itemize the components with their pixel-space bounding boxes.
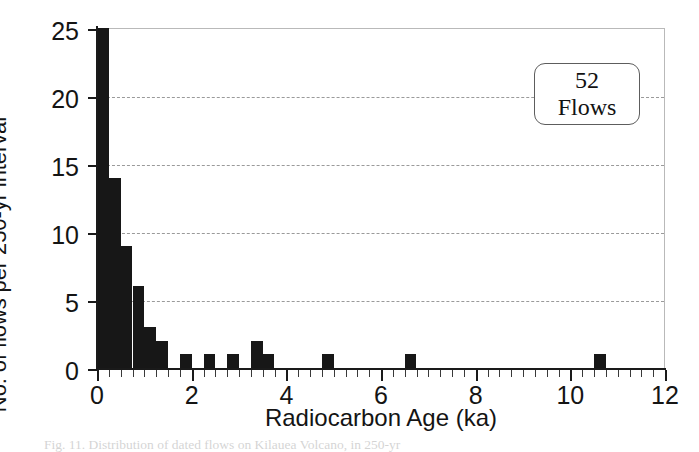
x-tick-minor	[464, 370, 465, 377]
x-tick-minor	[417, 370, 418, 377]
bar	[251, 341, 263, 368]
plot-area: 25 20 15 10 5 0 52 Flows	[97, 28, 665, 368]
bar	[121, 246, 133, 368]
x-tick-minor	[168, 370, 169, 377]
bar	[405, 354, 417, 368]
x-tick-minor	[156, 370, 157, 377]
figure-caption: Fig. 11. Distribution of dated flows on …	[44, 437, 664, 452]
x-tick-minor	[499, 370, 500, 377]
flow-count-annotation: 52 Flows	[534, 63, 640, 125]
bar	[204, 354, 216, 368]
y-tick-label-20: 20	[51, 87, 79, 112]
x-tick-minor	[121, 370, 122, 377]
x-tick-major	[665, 370, 667, 381]
x-tick-minor	[511, 370, 512, 377]
y-axis-title: No. of flows per 250-yr interval	[0, 117, 12, 412]
y-tick-label-25: 25	[51, 19, 79, 44]
x-tick-minor	[630, 370, 631, 377]
x-tick-minor	[144, 370, 145, 377]
bar	[97, 28, 109, 368]
x-tick-minor	[109, 370, 110, 377]
x-tick-minor	[653, 370, 654, 377]
x-tick-major	[97, 370, 99, 381]
y-tick-label-15: 15	[51, 155, 79, 180]
flow-count-label: Flows	[558, 94, 617, 121]
figure-radiocarbon-age-histogram: No. of flows per 250-yr interval 25 20 1…	[0, 0, 699, 452]
bar	[180, 354, 192, 368]
x-tick-minor	[239, 370, 240, 377]
x-tick-minor	[559, 370, 560, 377]
x-tick-minor	[322, 370, 323, 377]
x-tick-minor	[641, 370, 642, 377]
x-tick-major	[192, 370, 194, 381]
y-axis-line	[96, 26, 98, 370]
x-tick-minor	[452, 370, 453, 377]
x-tick-minor	[204, 370, 205, 377]
y-tick-label-5: 5	[65, 291, 79, 316]
x-tick-minor	[618, 370, 619, 377]
x-tick-minor	[440, 370, 441, 377]
x-tick-minor	[215, 370, 216, 377]
bar	[144, 327, 156, 368]
x-tick-minor	[582, 370, 583, 377]
flow-count-value: 52	[575, 67, 599, 94]
bar	[156, 341, 168, 368]
x-tick-minor	[488, 370, 489, 377]
x-tick-major	[381, 370, 383, 381]
x-tick-minor	[547, 370, 548, 377]
bar	[109, 178, 121, 368]
x-tick-minor	[535, 370, 536, 377]
bar	[263, 354, 275, 368]
y-tick-label-0: 0	[65, 359, 79, 384]
bar	[133, 286, 145, 368]
x-tick-minor	[310, 370, 311, 377]
x-tick-minor	[180, 370, 181, 377]
x-tick-minor	[133, 370, 134, 377]
x-tick-minor	[251, 370, 252, 377]
x-tick-major	[286, 370, 288, 381]
x-tick-minor	[369, 370, 370, 377]
x-axis-title: Radiocarbon Age (ka)	[97, 404, 665, 432]
x-tick-major	[570, 370, 572, 381]
x-tick-minor	[357, 370, 358, 377]
y-tick-label-10: 10	[51, 223, 79, 248]
bar	[227, 354, 239, 368]
x-tick-minor	[405, 370, 406, 377]
x-tick-minor	[346, 370, 347, 377]
x-tick-minor	[334, 370, 335, 377]
x-tick-minor	[523, 370, 524, 377]
x-tick-major	[476, 370, 478, 381]
x-tick-minor	[428, 370, 429, 377]
x-tick-minor	[594, 370, 595, 377]
x-tick-minor	[393, 370, 394, 377]
x-tick-minor	[606, 370, 607, 377]
x-tick-minor	[275, 370, 276, 377]
x-tick-minor	[298, 370, 299, 377]
x-tick-minor	[263, 370, 264, 377]
bar	[594, 354, 606, 368]
bar	[322, 354, 334, 368]
x-tick-minor	[227, 370, 228, 377]
